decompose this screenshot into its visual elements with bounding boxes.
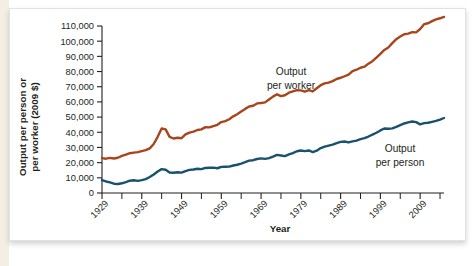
y-axis-tick-label: 60,000	[66, 97, 94, 107]
y-axis-tick-label: 110,000	[61, 21, 94, 31]
y-axis-tick-label: 40,000	[66, 128, 94, 138]
x-axis-tick-label: 1979	[288, 198, 310, 220]
x-axis-ticks	[102, 193, 440, 199]
x-axis-tick-label: 1969	[248, 198, 270, 220]
page-margin-strip	[0, 0, 9, 266]
y-axis-title-line1: Output per person or	[17, 78, 28, 176]
x-axis-tick-label: 1989	[327, 198, 349, 220]
annotation-worker-line1: Output	[276, 66, 307, 77]
y-axis-tick-labels: 010,00020,00030,00040,00050,00060,00070,…	[60, 21, 94, 198]
y-axis-tick-label: 10,000	[66, 173, 94, 183]
y-axis-ticks	[97, 26, 102, 193]
annotation-person-line2: per person	[376, 157, 425, 168]
chart-card: 010,00020,00030,00040,00050,00060,00070,…	[9, 8, 466, 241]
x-axis-tick-labels: 192919391949195919691979198919992009	[89, 198, 429, 220]
annotation-person-line1: Output	[385, 143, 416, 154]
figure-page: 010,00020,00030,00040,00050,00060,00070,…	[0, 0, 475, 266]
y-axis-title: Output per person or per worker (2009 $)	[17, 78, 40, 176]
line-chart: 010,00020,00030,00040,00050,00060,00070,…	[10, 9, 466, 241]
y-axis-tick-label: 90,000	[66, 52, 94, 62]
y-axis-tick-label: 0	[89, 188, 94, 198]
y-axis-tick-label: 70,000	[66, 82, 94, 92]
annotation-output-per-worker: Output per worker	[267, 66, 316, 91]
x-axis-tick-label: 1999	[367, 198, 389, 220]
x-axis-tick-label: 2009	[407, 198, 429, 220]
x-axis-title: Year	[270, 223, 291, 234]
x-axis-tick-label: 1949	[168, 198, 190, 220]
y-axis-tick-label: 20,000	[66, 158, 94, 168]
annotation-output-per-person: Output per person	[376, 143, 425, 168]
x-axis-tick-label: 1929	[89, 198, 111, 220]
x-axis-tick-label: 1939	[128, 198, 150, 220]
y-axis-title-line2: per worker (2009 $)	[29, 82, 40, 171]
y-axis-tick-label: 30,000	[66, 143, 94, 153]
annotation-worker-line2: per worker	[267, 80, 316, 91]
y-axis-tick-label: 100,000	[60, 37, 94, 47]
y-axis-tick-label: 50,000	[66, 112, 94, 122]
y-axis-tick-label: 80,000	[66, 67, 94, 77]
x-axis-tick-label: 1959	[208, 198, 230, 220]
